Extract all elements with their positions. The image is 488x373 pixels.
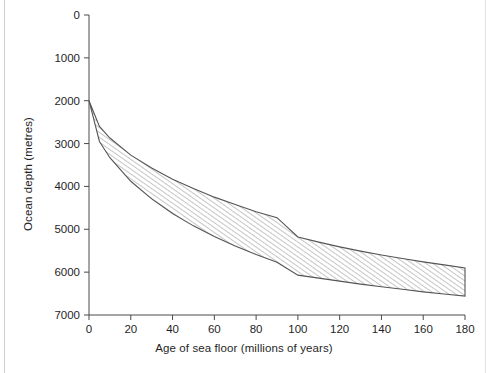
ocean-depth-band — [89, 101, 465, 296]
x-tick-label: 20 — [124, 323, 137, 335]
x-tick-label: 180 — [455, 323, 474, 335]
x-tick-label: 40 — [166, 323, 179, 335]
x-tick-label: 0 — [86, 323, 92, 335]
y-tick-label: 0 — [74, 9, 80, 21]
x-tick-label: 80 — [250, 323, 263, 335]
x-tick-label: 160 — [414, 323, 433, 335]
x-axis-title: Age of sea floor (millions of years) — [0, 342, 488, 354]
y-tick-label: 2000 — [54, 95, 80, 107]
plot-canvas: 01000200030004000500060007000 0204060801… — [0, 0, 488, 373]
y-tick-label: 5000 — [54, 223, 80, 235]
y-axis-ticks: 01000200030004000500060007000 — [54, 9, 89, 321]
x-axis: 020406080100120140160180 — [86, 315, 475, 335]
y-tick-label: 1000 — [54, 52, 80, 64]
x-tick-label: 60 — [208, 323, 221, 335]
y-tick-label: 7000 — [54, 309, 80, 321]
y-axis: 01000200030004000500060007000 — [54, 9, 89, 321]
x-axis-ticks: 020406080100120140160180 — [86, 315, 475, 335]
y-tick-label: 4000 — [54, 180, 80, 192]
x-tick-label: 120 — [330, 323, 349, 335]
x-tick-label: 140 — [372, 323, 391, 335]
data-band-group — [89, 101, 465, 296]
figure-ocean-depth-vs-seafloor-age: 01000200030004000500060007000 0204060801… — [0, 0, 488, 373]
x-tick-label: 100 — [288, 323, 307, 335]
y-tick-label: 3000 — [54, 138, 80, 150]
y-tick-label: 6000 — [54, 266, 80, 278]
y-axis-title: Ocean depth (metres) — [22, 74, 34, 274]
